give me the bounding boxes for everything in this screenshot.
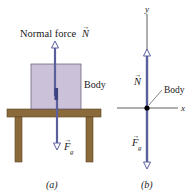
gravity-arrowhead-icon-b (144, 162, 151, 169)
free-body-diagram: Normal force N → Body F g → (a) y x Body… (0, 0, 193, 196)
body-leader-line (149, 90, 162, 105)
gravity-arrowhead-icon (54, 143, 61, 150)
normal-force-arrowhead-icon (52, 41, 59, 48)
table-leg-left (15, 117, 22, 162)
gravity-arrow-icon-a: → (65, 136, 72, 144)
panel-b: y x Body N → F g → (b) (117, 4, 185, 191)
panel-a: Normal force N → Body F g → (a) (7, 23, 106, 192)
vector-overlap (55, 88, 59, 100)
caption-b: (b) (141, 179, 153, 191)
table-top (7, 109, 101, 117)
normal-force-arrowhead-icon-b (144, 49, 151, 56)
caption-a: (a) (46, 179, 58, 191)
gravity-subscript-a: g (70, 148, 74, 156)
body-label-a: Body (84, 79, 106, 90)
body-label-b: Body (164, 85, 185, 95)
normal-force-label: Normal force (20, 28, 77, 39)
y-axis-label: y (144, 4, 149, 14)
gravity-arrow-icon-b: → (133, 132, 140, 140)
gravity-subscript-b: g (138, 144, 142, 152)
x-axis-label: x (180, 103, 185, 113)
normal-vector-arrow-icon: → (83, 23, 90, 31)
normal-vector-arrow-icon-b: → (135, 71, 142, 79)
table-leg-right (86, 117, 93, 162)
body-point (144, 105, 149, 110)
